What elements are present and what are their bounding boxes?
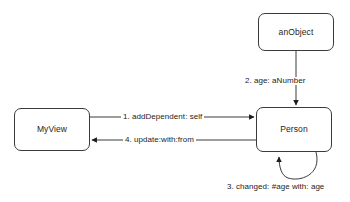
node-myview-label: MyView	[37, 125, 67, 134]
node-myview[interactable]: MyView	[14, 108, 90, 151]
diagram-canvas: MyView Person anObject 1. addDependent: …	[0, 0, 350, 202]
edge-label-changed-age: 3. changed: #age with: age	[225, 183, 326, 191]
node-person-label: Person	[280, 125, 308, 134]
node-anobject-label: anObject	[279, 28, 314, 37]
edge-label-update-with-from: 4. update:with:from	[123, 136, 196, 144]
node-person[interactable]: Person	[256, 107, 332, 152]
edge-label-addDependent: 1. addDependent: self	[121, 113, 204, 121]
edge-label-age-anumber: 2. age: aNumber	[243, 77, 307, 85]
node-anobject[interactable]: anObject	[258, 13, 334, 51]
edge-changed-self-loop	[279, 152, 317, 179]
